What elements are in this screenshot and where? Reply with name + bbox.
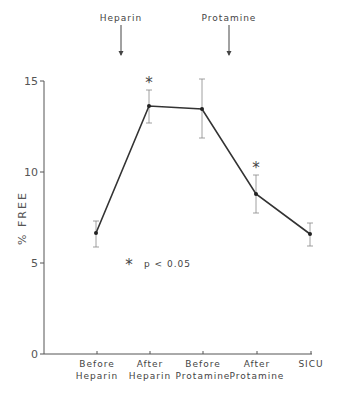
legend-text: p < 0.05 xyxy=(144,259,191,269)
x-label-after-heparin-1: After xyxy=(137,359,164,369)
y-axis: 15 10 5 0 % FREE xyxy=(16,75,44,361)
protamine-annotation: Protamine xyxy=(202,13,257,56)
x-label-before-protamine-1: Before xyxy=(185,359,220,369)
data-line xyxy=(96,106,310,234)
significance-star-after-protamine: * xyxy=(252,159,260,177)
legend-star-icon: * xyxy=(125,256,133,274)
x-label-after-heparin-2: Heparin xyxy=(129,371,171,381)
heparin-annotation: Heparin xyxy=(100,13,142,56)
protamine-arrow-label: Protamine xyxy=(202,13,257,23)
y-tick-0: 0 xyxy=(31,348,38,361)
x-label-sicu: SICU xyxy=(298,359,323,369)
x-axis: Before Heparin After Heparin Before Prot… xyxy=(44,351,324,381)
data-points xyxy=(94,104,312,236)
legend: * p < 0.05 xyxy=(125,256,191,274)
y-axis-label: % FREE xyxy=(16,191,29,245)
y-tick-10: 10 xyxy=(24,166,38,179)
chart: Heparin Protamine 15 10 5 0 % FREE Befor… xyxy=(0,0,338,394)
x-label-after-protamine-1: After xyxy=(244,359,271,369)
y-tick-15: 15 xyxy=(24,75,38,88)
x-label-before-heparin-1: Before xyxy=(79,359,114,369)
significance-star-after-heparin: * xyxy=(145,74,153,92)
x-label-after-protamine-2: Protamine xyxy=(230,371,285,381)
x-label-before-protamine-2: Protamine xyxy=(176,371,231,381)
heparin-arrow-label: Heparin xyxy=(100,13,142,23)
y-tick-5: 5 xyxy=(31,257,38,270)
x-label-before-heparin-2: Heparin xyxy=(76,371,118,381)
